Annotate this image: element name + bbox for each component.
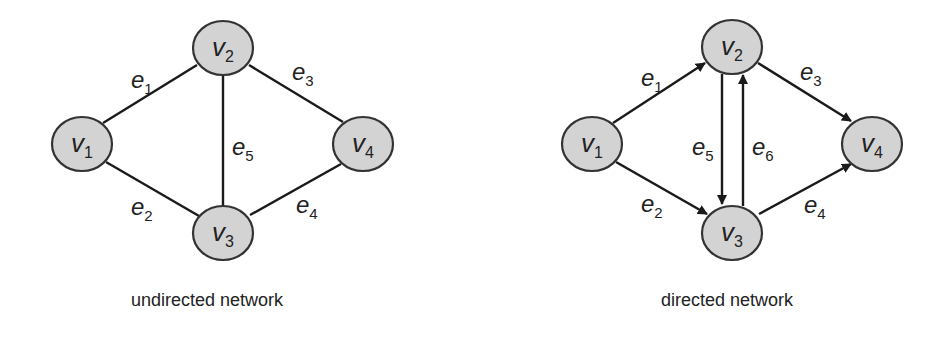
edge-label-e3: e3	[292, 58, 314, 89]
caption-undirected: undirected network	[131, 290, 283, 311]
undirected-network: v1 v2 v3 v4 e1 e2 e3 e4 e5	[52, 21, 393, 260]
edge-label-e1: e1	[131, 66, 153, 97]
network-diagrams: v1 v2 v3 v4 e1 e2 e3 e4 e5 v1 v2 v3 v4 e…	[0, 0, 941, 337]
edge-label-e5: e5	[232, 133, 254, 164]
edge-label-e2: e2	[641, 190, 663, 221]
edge-label-e4: e4	[296, 191, 318, 222]
edge-label-e3: e3	[800, 58, 822, 89]
directed-network: v1 v2 v3 v4 e1 e2 e3 e4 e5 e6	[562, 20, 902, 260]
edge-label-e5: e5	[692, 133, 714, 164]
edge-label-e4: e4	[804, 191, 826, 222]
edge-label-e2: e2	[131, 193, 153, 224]
edge-label-e1: e1	[641, 64, 663, 95]
edge-label-e6: e6	[752, 133, 774, 164]
caption-directed: directed network	[661, 290, 793, 311]
